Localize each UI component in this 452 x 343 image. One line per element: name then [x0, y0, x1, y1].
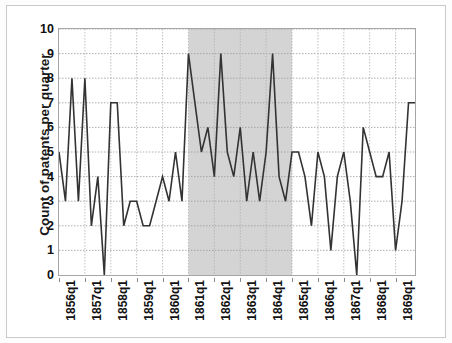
x-axis-tick-mark — [111, 278, 112, 282]
y-axis-tick-labels: 109876543210 — [30, 28, 56, 276]
x-axis-tick-mark — [240, 278, 241, 282]
y-axis-tick-label: 2 — [47, 219, 54, 233]
x-axis-tick-mark — [396, 278, 397, 282]
y-axis-tick-label: 3 — [47, 194, 54, 208]
x-axis-tick-mark — [266, 278, 267, 282]
x-axis-tick-label: 1860q1 — [168, 280, 182, 321]
plot-area — [58, 28, 416, 276]
x-axis-tick-label: 1863q1 — [245, 280, 259, 321]
x-axis-tick-label: 1865q1 — [297, 280, 311, 321]
x-axis-tick-label: 1866q1 — [323, 280, 337, 321]
x-axis-tick-mark — [318, 278, 319, 282]
x-axis-tick-mark — [344, 278, 345, 282]
chart-screenshot: Count of patents per quarter 10987654321… — [0, 0, 452, 343]
x-axis-tick-mark — [137, 278, 138, 282]
x-axis-tick-label: 1869q1 — [401, 280, 415, 321]
series-line-chart — [59, 29, 415, 275]
x-axis-tick-labels: 1856q11857q11858q11859q11860q11861q11862… — [58, 278, 416, 340]
y-axis-tick-label: 1 — [47, 243, 54, 257]
y-axis-tick-label: 9 — [47, 47, 54, 61]
y-axis-tick-label: 6 — [47, 120, 54, 134]
y-axis-title-wrap: Count of patents per quarter — [10, 28, 32, 278]
x-axis-tick-mark — [85, 278, 86, 282]
y-axis-tick-label: 10 — [40, 22, 54, 36]
x-axis-tick-label: 1856q1 — [64, 280, 78, 321]
y-axis-tick-label: 8 — [47, 71, 54, 85]
x-axis-tick-mark — [188, 278, 189, 282]
x-axis-tick-mark — [370, 278, 371, 282]
x-axis-tick-label: 1868q1 — [375, 280, 389, 321]
x-axis-tick-label: 1857q1 — [90, 280, 104, 321]
x-axis-tick-label: 1864q1 — [271, 280, 285, 321]
y-axis-tick-label: 5 — [47, 145, 54, 159]
x-axis-tick-mark — [163, 278, 164, 282]
x-axis-tick-mark — [59, 278, 60, 282]
y-axis-tick-label: 7 — [47, 96, 54, 110]
x-axis-tick-label: 1862q1 — [219, 280, 233, 321]
x-axis-tick-mark — [292, 278, 293, 282]
y-axis-tick-label: 4 — [47, 170, 54, 184]
y-axis-tick-label: 0 — [47, 268, 54, 282]
x-axis-tick-label: 1861q1 — [193, 280, 207, 321]
x-axis-tick-label: 1867q1 — [349, 280, 363, 321]
x-axis-tick-mark — [214, 278, 215, 282]
x-axis-tick-label: 1859q1 — [142, 280, 156, 321]
x-axis-tick-label: 1858q1 — [116, 280, 130, 321]
